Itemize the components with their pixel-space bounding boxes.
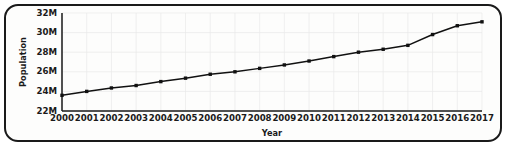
x-tick-label: 2002	[99, 113, 123, 123]
data-point-marker	[431, 33, 434, 36]
data-point-marker	[209, 73, 212, 76]
y-tick-label: 30M	[36, 27, 57, 37]
y-tick-label: 28M	[36, 47, 57, 57]
data-point-marker	[233, 70, 236, 73]
y-tick-labels: 22M24M26M28M30M32M	[36, 8, 57, 116]
x-tick-label: 2011	[322, 113, 346, 123]
gridlines-horizontal	[62, 13, 482, 111]
y-axis-title: Population	[18, 37, 28, 87]
chart-canvas: 22M24M26M28M30M32M 200020012002200320042…	[0, 0, 508, 148]
data-point-marker	[357, 51, 360, 54]
population-line-chart: 22M24M26M28M30M32M 200020012002200320042…	[0, 0, 508, 148]
x-tick-label: 2014	[396, 113, 420, 123]
data-point-marker	[307, 59, 310, 62]
data-point-marker	[85, 90, 88, 93]
gridlines-vertical	[62, 13, 482, 111]
x-tick-label: 2001	[75, 113, 99, 123]
x-tick-label: 2005	[174, 113, 198, 123]
x-tick-label: 2000	[50, 113, 74, 123]
data-point-marker	[381, 48, 384, 51]
y-tick-label: 32M	[36, 8, 57, 18]
x-axis-title: Year	[261, 128, 283, 138]
x-tick-label: 2007	[223, 113, 247, 123]
data-point-marker	[110, 86, 113, 89]
data-point-marker	[258, 67, 261, 70]
x-tick-label: 2004	[149, 113, 173, 123]
x-tick-label: 2012	[347, 113, 371, 123]
data-point-marker	[480, 20, 483, 23]
data-point-marker	[456, 24, 459, 27]
y-tick-label: 26M	[36, 66, 57, 76]
data-point-marker	[406, 44, 409, 47]
data-point-marker	[332, 55, 335, 58]
data-point-marker	[159, 80, 162, 83]
x-tick-label: 2003	[124, 113, 148, 123]
x-tick-label: 2017	[470, 113, 494, 123]
x-tick-label: 2008	[248, 113, 272, 123]
data-point-marker	[134, 84, 137, 87]
population-series-markers	[60, 20, 483, 97]
x-tick-label: 2015	[421, 113, 445, 123]
x-tick-label: 2013	[371, 113, 395, 123]
x-tick-labels: 2000200120022003200420052006200720082009…	[50, 113, 494, 123]
data-point-marker	[60, 94, 63, 97]
x-tick-label: 2009	[272, 113, 296, 123]
data-point-marker	[283, 63, 286, 66]
x-tick-label: 2016	[445, 113, 469, 123]
y-tick-label: 24M	[36, 86, 57, 96]
data-point-marker	[184, 76, 187, 79]
x-tick-label: 2006	[198, 113, 222, 123]
x-tick-label: 2010	[297, 113, 321, 123]
